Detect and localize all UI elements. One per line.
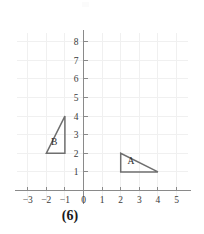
axes [15, 30, 191, 204]
y-axis-tick-label: 4 [74, 112, 79, 122]
y-axis-tick-label: 6 [74, 74, 79, 84]
coordinate-plane-plot: −3−2−101234512345678 AB [0, 0, 204, 234]
figure-caption: (6) [0, 208, 140, 224]
grid-lines [17, 33, 188, 202]
y-axis-tick-label: 7 [74, 56, 79, 66]
x-axis-tick-label: 0 [81, 195, 86, 205]
y-axis-tick-label: 5 [74, 93, 79, 103]
x-axis-tick-label: 2 [118, 195, 123, 205]
y-axis-tick-label: 1 [74, 167, 79, 177]
y-axis-tick-label: 8 [74, 37, 79, 47]
y-axis-tick-label: 3 [74, 130, 79, 140]
x-axis-tick-label: 5 [174, 195, 179, 205]
shape-label-b: B [51, 137, 57, 147]
shape-labels: AB [51, 137, 135, 166]
x-axis-tick-label: −1 [60, 195, 70, 205]
y-axis-tick-label: 2 [74, 149, 79, 159]
shape-label-a: A [127, 156, 134, 166]
figure-panel: −3−2−101234512345678 AB (6) [0, 0, 204, 234]
x-axis-tick-label: 4 [156, 195, 161, 205]
x-axis-tick-label: 1 [100, 195, 105, 205]
x-axis-tick-label: 3 [137, 195, 142, 205]
x-axis-tick-label: −3 [23, 195, 33, 205]
x-axis-tick-label: −2 [41, 195, 51, 205]
